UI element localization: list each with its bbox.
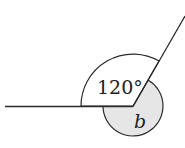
angle-b-label: b (134, 110, 146, 132)
angle-120-label: 120° (97, 76, 143, 98)
angle-diagram: 120° b (0, 0, 185, 148)
